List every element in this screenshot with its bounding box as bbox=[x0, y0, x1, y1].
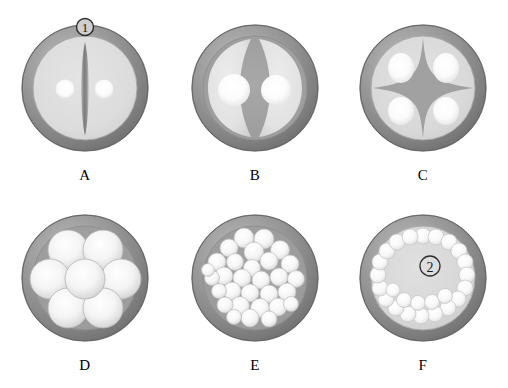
svg-text:2: 2 bbox=[427, 260, 434, 275]
panel-e-label: E bbox=[172, 356, 338, 374]
panel-b-label: B bbox=[172, 166, 338, 184]
panel-e-image bbox=[172, 198, 338, 358]
panel-c-label: C bbox=[340, 166, 506, 184]
panel-a-image: 1 bbox=[2, 8, 168, 168]
marker-circled-one: 1 bbox=[77, 19, 94, 36]
panel-b-image bbox=[172, 8, 338, 168]
panel-f-image: 2 bbox=[340, 198, 506, 358]
panel-c[interactable]: C bbox=[340, 8, 506, 202]
panel-e[interactable]: E bbox=[172, 198, 338, 388]
panel-d-image bbox=[2, 198, 168, 358]
panel-f-label: F bbox=[340, 356, 506, 374]
panel-d[interactable]: D bbox=[2, 198, 168, 388]
panel-d-label: D bbox=[2, 356, 168, 374]
panel-c-image bbox=[340, 8, 506, 168]
svg-text:1: 1 bbox=[82, 20, 89, 35]
panel-f[interactable]: 2 F bbox=[340, 198, 506, 388]
panel-a[interactable]: 1 A bbox=[2, 8, 168, 202]
panel-b[interactable]: B bbox=[172, 8, 338, 202]
panel-a-label: A bbox=[2, 166, 168, 184]
figure-container: 1 A bbox=[0, 0, 508, 388]
